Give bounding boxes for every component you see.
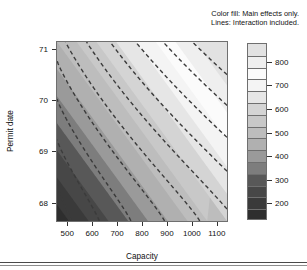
- x-axis-tick: [167, 222, 168, 226]
- colorbar-tick: [267, 180, 272, 181]
- colorbar-band: [248, 162, 266, 174]
- colorbar-band: [248, 197, 266, 209]
- colorbar-band: [248, 115, 266, 127]
- x-axis-tick-label: 500: [61, 229, 74, 238]
- y-axis-tick: [52, 49, 56, 50]
- colorbar-band: [248, 186, 266, 198]
- y-axis-tick-label: 69: [32, 147, 48, 156]
- x-axis-tick: [192, 222, 193, 226]
- colorbar-band-separator: [248, 79, 266, 80]
- colorbar-band: [248, 56, 266, 68]
- y-axis-tick: [52, 203, 56, 204]
- colorbar-band-separator: [248, 127, 266, 128]
- colorbar-band: [248, 68, 266, 80]
- plot-area: [56, 41, 228, 222]
- y-axis-tick: [52, 100, 56, 101]
- x-axis-title: Capacity: [126, 252, 158, 261]
- x-axis-tick-label: 1000: [183, 229, 201, 238]
- colorbar-band-separator: [248, 103, 266, 104]
- colorbar-band-separator: [248, 174, 266, 175]
- x-axis-tick: [142, 222, 143, 226]
- bottom-divider-secondary: [0, 265, 307, 266]
- colorbar-band: [248, 209, 266, 220]
- chart-caption: Color fill: Main effects only. Lines: In…: [211, 9, 299, 28]
- x-axis-tick: [217, 222, 218, 226]
- colorbar-tick: [267, 203, 272, 204]
- colorbar-band-separator: [248, 186, 266, 187]
- colorbar: [247, 43, 267, 220]
- chart-root: Color fill: Main effects only. Lines: In…: [0, 0, 307, 270]
- colorbar-band-separator: [248, 56, 266, 57]
- colorbar-band: [248, 174, 266, 186]
- x-axis-tick-label: 1100: [208, 229, 225, 238]
- colorbar-tick-label: 200: [275, 199, 288, 208]
- x-axis-tick-label: 700: [110, 229, 123, 238]
- caption-line-1: Color fill: Main effects only.: [211, 9, 299, 18]
- bottom-divider: [0, 262, 307, 263]
- colorbar-band: [248, 44, 266, 56]
- colorbar-tick: [267, 109, 272, 110]
- colorbar-band: [248, 79, 266, 91]
- x-axis-tick-label: 600: [85, 229, 98, 238]
- colorbar-tick-label: 300: [275, 175, 288, 184]
- colorbar-band: [248, 127, 266, 139]
- y-axis-tick-label: 70: [32, 95, 48, 104]
- x-axis-tick: [117, 222, 118, 226]
- colorbar-tick-label: 600: [275, 105, 288, 114]
- colorbar-band: [248, 91, 266, 103]
- colorbar-tick: [267, 85, 272, 86]
- colorbar-band-separator: [248, 68, 266, 69]
- y-axis-tick-label: 71: [32, 44, 48, 53]
- colorbar-tick: [267, 133, 272, 134]
- colorbar-band: [248, 150, 266, 162]
- colorbar-tick-label: 400: [275, 152, 288, 161]
- y-axis-title: Permit date: [6, 110, 15, 152]
- x-axis-tick-label: 800: [135, 229, 148, 238]
- caption-line-2: Lines: Interaction included.: [211, 18, 299, 27]
- colorbar-band-separator: [248, 209, 266, 210]
- colorbar-band-separator: [248, 197, 266, 198]
- y-axis-tick-label: 68: [32, 198, 48, 207]
- colorbar-tick: [267, 156, 272, 157]
- colorbar-tick: [267, 62, 272, 63]
- colorbar-band-separator: [248, 115, 266, 116]
- colorbar-band-separator: [248, 162, 266, 163]
- colorbar-band: [248, 138, 266, 150]
- x-axis-tick: [67, 222, 68, 226]
- x-axis-tick: [92, 222, 93, 226]
- colorbar-tick-label: 500: [275, 128, 288, 137]
- contour-plot-canvas: [57, 42, 227, 221]
- colorbar-band: [248, 103, 266, 115]
- colorbar-band-separator: [248, 150, 266, 151]
- colorbar-tick-label: 700: [275, 81, 288, 90]
- colorbar-band-separator: [248, 91, 266, 92]
- colorbar-band-separator: [248, 138, 266, 139]
- colorbar-tick-label: 800: [275, 57, 288, 66]
- x-axis-tick-label: 900: [160, 229, 173, 238]
- y-axis-tick: [52, 151, 56, 152]
